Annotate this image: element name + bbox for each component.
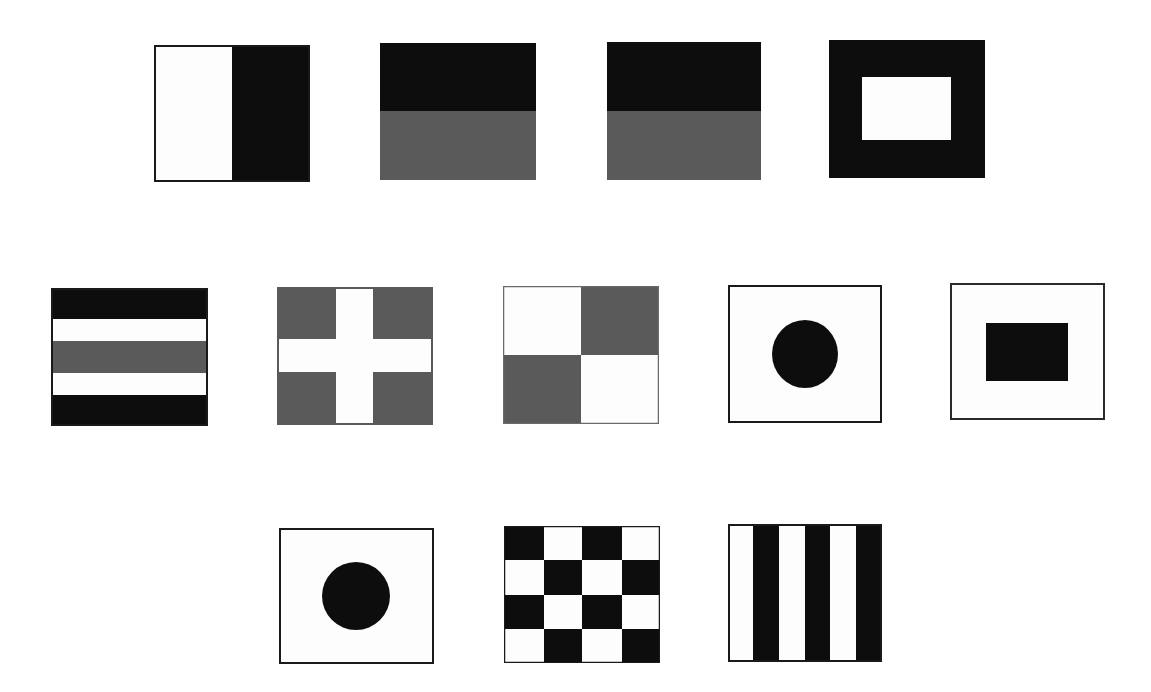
flag-vertical-halves-white-black	[154, 45, 310, 182]
flag-4-graphic	[829, 40, 985, 178]
flag-7-graphic	[503, 286, 659, 424]
flag-quartered-white-gray	[503, 286, 659, 424]
flag-horizontal-five-stripes	[51, 288, 208, 426]
flag-10-graphic	[279, 528, 434, 664]
flag-horizontal-halves-black-gray	[607, 42, 761, 180]
flag-8-graphic	[728, 285, 882, 423]
flag-1-graphic	[154, 45, 310, 182]
flag-11-graphic	[504, 526, 660, 663]
flag-6-graphic	[277, 287, 433, 425]
flag-5-graphic	[51, 288, 208, 426]
flag-9-graphic	[950, 283, 1105, 420]
flag-gray-with-white-cross	[277, 287, 433, 425]
flag-3-graphic	[607, 42, 761, 180]
flag-white-with-black-circle	[279, 528, 434, 664]
flag-white-with-black-circle	[728, 285, 882, 423]
flag-white-with-black-rectangle	[950, 283, 1105, 420]
flag-vertical-stripes	[728, 524, 882, 662]
flag-checkerboard	[504, 526, 660, 663]
flag-2-graphic	[380, 43, 536, 180]
flag-black-with-white-rectangle	[829, 40, 985, 178]
flag-12-graphic	[728, 524, 882, 662]
flag-horizontal-halves-black-gray	[380, 43, 536, 180]
